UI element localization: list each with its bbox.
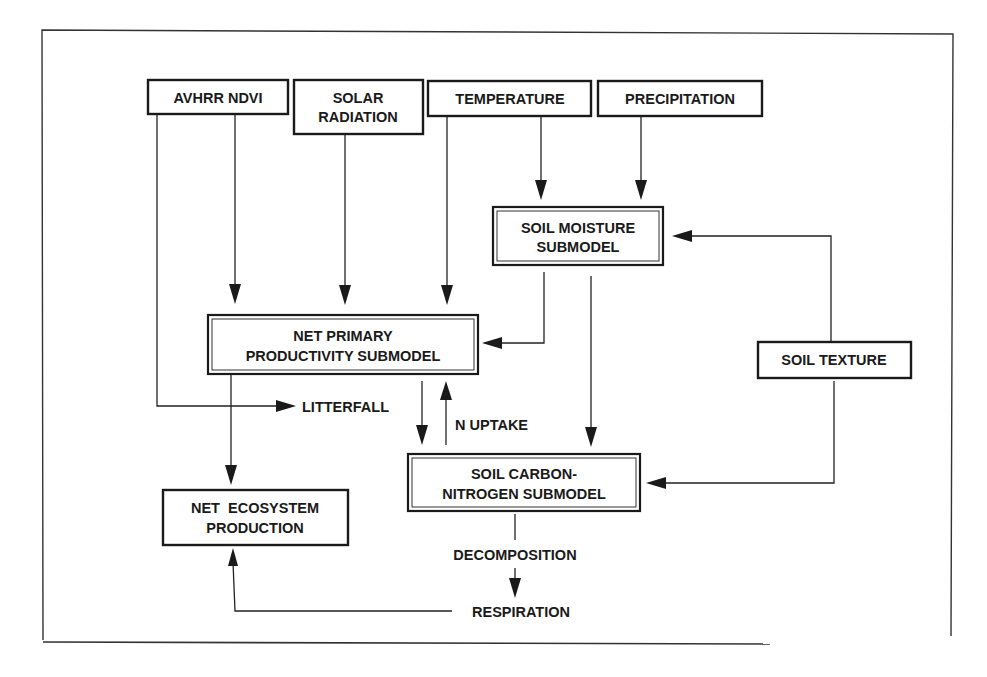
label-litterfall: LITTERFALL xyxy=(302,399,389,415)
input-solar-radiation: SOLAR RADIATION xyxy=(294,80,423,134)
label-soil-texture: SOIL TEXTURE xyxy=(781,352,887,368)
arrowhead-icon xyxy=(672,230,692,242)
ecosystem-model-diagram: AVHRR NDVI SOLAR RADIATION TEMPERATURE P… xyxy=(0,0,987,677)
arrowhead-icon xyxy=(482,337,502,349)
label-radiation: RADIATION xyxy=(318,109,397,125)
arrowhead-icon xyxy=(635,180,647,200)
label-soil-carbon: SOIL CARBON- xyxy=(471,466,577,482)
arrowhead-icon xyxy=(276,400,296,412)
label-productivity-submodel: PRODUCTIVITY SUBMODEL xyxy=(246,348,441,364)
label-solar: SOLAR xyxy=(333,90,384,106)
label-net-primary: NET PRIMARY xyxy=(293,328,393,344)
submodel-soil-carbon-nitrogen: SOIL CARBON- NITROGEN SUBMODEL xyxy=(408,454,640,511)
label-soil-moisture: SOIL MOISTURE xyxy=(521,220,635,236)
edge-respiration-nep xyxy=(233,562,452,611)
arrowhead-icon xyxy=(228,548,238,566)
arrowhead-icon xyxy=(509,578,521,598)
arrowhead-icon xyxy=(441,285,453,305)
label-avhrr-ndvi: AVHRR NDVI xyxy=(173,90,262,106)
label-submodel: SUBMODEL xyxy=(537,239,620,255)
label-nitrogen-submodel: NITROGEN SUBMODEL xyxy=(442,486,606,502)
input-avhrr-ndvi: AVHRR NDVI xyxy=(148,80,288,114)
arrowhead-icon xyxy=(585,427,597,447)
label-precipitation: PRECIPITATION xyxy=(625,91,735,107)
label-respiration: RESPIRATION xyxy=(472,604,570,620)
label-production: PRODUCTION xyxy=(206,520,303,536)
label-net-ecosystem: NET ECOSYSTEM xyxy=(191,500,319,516)
output-net-ecosystem-production: NET ECOSYSTEM PRODUCTION xyxy=(163,490,348,545)
label-decomposition: DECOMPOSITION xyxy=(453,547,576,563)
submodel-soil-moisture: SOIL MOISTURE SUBMODEL xyxy=(493,207,663,265)
input-soil-texture: SOIL TEXTURE xyxy=(758,342,911,378)
arrowhead-icon xyxy=(646,477,666,489)
label-temperature: TEMPERATURE xyxy=(455,91,565,107)
arrowhead-icon xyxy=(225,465,237,485)
arrowhead-icon xyxy=(440,381,452,400)
edge-texture-soilcn xyxy=(664,381,834,483)
label-n-uptake: N UPTAKE xyxy=(455,417,528,433)
arrowhead-icon xyxy=(416,425,428,445)
input-temperature: TEMPERATURE xyxy=(428,81,591,116)
arrowhead-icon xyxy=(229,284,241,304)
submodel-net-primary-productivity: NET PRIMARY PRODUCTIVITY SUBMODEL xyxy=(208,315,478,374)
arrowhead-icon xyxy=(535,180,547,200)
edge-soilmoisture-npp xyxy=(500,272,544,343)
edge-texture-soilmoisture xyxy=(690,236,831,341)
input-precipitation: PRECIPITATION xyxy=(598,81,762,116)
arrowhead-icon xyxy=(339,285,351,305)
